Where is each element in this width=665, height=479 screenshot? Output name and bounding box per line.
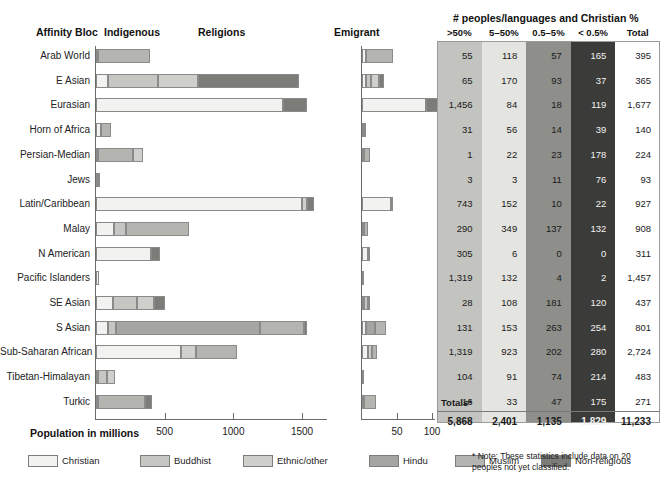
table-cell: 178: [571, 148, 607, 161]
table-cell: 0: [526, 247, 562, 260]
table-cell: 1,457: [615, 271, 651, 284]
emigrant-bar-tibetan-himalayan: [362, 370, 364, 384]
indigenous-bar-latin-caribbean: [96, 197, 314, 211]
row-label-n-american: N American: [0, 247, 90, 261]
table-cell: 214: [571, 370, 607, 383]
table-cell: 22: [482, 148, 518, 161]
segment-hindu: [366, 321, 375, 335]
legend-swatch-ethnic-other: [243, 455, 273, 467]
emigrant-bar-latin-caribbean: [362, 197, 394, 211]
table-cell: 311: [615, 247, 651, 260]
table-cell: 349: [482, 222, 518, 235]
main-axis-vertical: [95, 46, 96, 419]
main-tick-label-500: 500: [140, 426, 190, 437]
indigenous-bar-sub-saharan-african: [96, 345, 237, 359]
main-axis-horizontal: [95, 419, 327, 420]
table-header-2: 0.5–5%: [526, 27, 571, 38]
table-cell: 14: [526, 123, 562, 136]
segment-christian: [362, 370, 364, 384]
row-label-arab-world: Arab World: [0, 49, 90, 63]
table-header-3: < 0.5%: [571, 27, 616, 38]
main-tick-1500: [302, 413, 303, 420]
table-cell: 1: [437, 148, 473, 161]
table-cell: 224: [615, 148, 651, 161]
row-label-s-asian: S Asian: [0, 321, 90, 335]
segment-buddhist: [113, 296, 136, 310]
segment-muslim: [98, 148, 133, 162]
main-tick-label-1500: 1500: [277, 426, 327, 437]
table-cell: 305: [437, 247, 473, 260]
totals-value: 1,135: [526, 416, 562, 427]
table-cell: 37: [571, 74, 607, 87]
emigrant-bar-s-asian: [362, 321, 387, 335]
table-cell: 108: [482, 296, 518, 309]
segment-muslim: [375, 321, 386, 335]
segment-christian: [96, 345, 181, 359]
table-cell: 132: [482, 271, 518, 284]
table-cell: 743: [437, 197, 473, 210]
main-tick-label-1000: 1000: [208, 426, 258, 437]
segment-christian: [96, 271, 99, 285]
main-tick-1000: [233, 413, 234, 420]
legend-label: Hindu: [403, 454, 428, 468]
emigrant-bar-turkic: [362, 395, 376, 409]
emigrant-bar-sub-saharan-african: [362, 345, 377, 359]
table-cell: 271: [615, 395, 651, 408]
segment-non-religious: [368, 247, 370, 261]
segment-muslim: [101, 123, 111, 137]
table-cell: 2: [571, 271, 607, 284]
header-affinity-bloc: Affinity Bloc: [36, 26, 98, 38]
indigenous-bar-pacific-islanders: [96, 271, 99, 285]
table-cell: 152: [482, 197, 518, 210]
totals-value: 1,829: [571, 416, 607, 427]
table-cell: 0: [571, 247, 607, 260]
table-cell: 923: [482, 345, 518, 358]
row-label-eurasian: Eurasian: [0, 98, 90, 112]
row-label-persian-median: Persian-Median: [0, 148, 90, 162]
totals-value: 2,401: [482, 416, 518, 427]
table-cell: 119: [571, 98, 607, 111]
indigenous-bar-eurasian: [96, 98, 307, 112]
indigenous-bar-s-asian: [96, 321, 307, 335]
segment-non-religious: [368, 296, 370, 310]
indigenous-bar-persian-median: [96, 148, 143, 162]
table-cell: 65: [437, 74, 473, 87]
indigenous-bar-malay: [96, 222, 189, 236]
table-cell: 131: [437, 321, 473, 334]
segment-ethnic-other: [137, 296, 155, 310]
emigrant-bar-e-asian: [362, 74, 384, 88]
table-cell: 175: [571, 395, 607, 408]
legend-swatch-buddhist: [140, 455, 170, 467]
emigrant-bar-malay: [362, 222, 368, 236]
emigrant-axis-vertical: [361, 46, 362, 419]
header-emigrant: Emigrant: [334, 26, 380, 38]
segment-ethnic-other: [371, 74, 379, 88]
table-cell: 365: [615, 74, 651, 87]
segment-muslim: [366, 49, 393, 63]
legend-label: Buddhist: [174, 454, 211, 468]
table-cell: 3: [437, 173, 473, 186]
axis-label-population: Population in millions: [30, 427, 139, 439]
table-cell: 56: [482, 123, 518, 136]
emigrant-tick-50: [397, 413, 398, 420]
emigrant-tick-100: [432, 413, 433, 420]
header-religions: Religions: [198, 26, 245, 38]
table-cell: 23: [526, 148, 562, 161]
segment-buddhist: [108, 74, 159, 88]
table-cell: 28: [437, 296, 473, 309]
row-label-turkic: Turkic: [0, 395, 90, 409]
indigenous-bar-e-asian: [96, 74, 299, 88]
table-cell: 31: [437, 123, 473, 136]
table-cell: 74: [526, 370, 562, 383]
segment-non-religious: [154, 296, 165, 310]
table-footnote: * Note: These statistics include data on…: [472, 451, 652, 473]
segment-christian: [96, 197, 302, 211]
table-cell: 290: [437, 222, 473, 235]
segment-christian: [96, 98, 283, 112]
emigrant-tick-label-100: 100: [407, 426, 457, 437]
table-cell: 165: [571, 49, 607, 62]
emigrant-bar-persian-median: [362, 148, 370, 162]
segment-christian: [96, 296, 113, 310]
row-label-se-asian: SE Asian: [0, 296, 90, 310]
segment-ethnic-other: [181, 345, 196, 359]
